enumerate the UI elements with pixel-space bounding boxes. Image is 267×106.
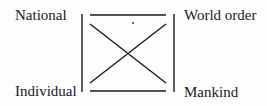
diagram-lines <box>0 0 267 106</box>
stray-dot <box>132 22 134 24</box>
cross-diagram: National World order Individual Mankind <box>0 0 267 106</box>
